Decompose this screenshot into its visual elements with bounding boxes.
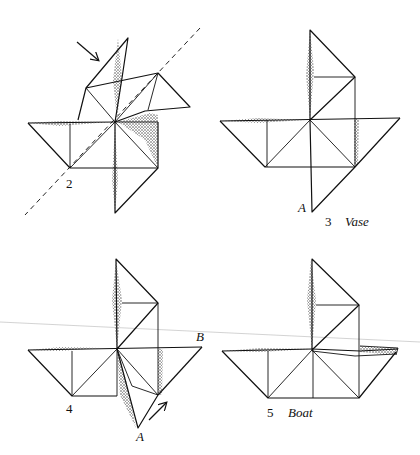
figure-caption: Boat: [288, 405, 313, 420]
point-label-a: A: [135, 429, 144, 444]
step-label: 3: [325, 214, 332, 229]
scan-artifact-line: [0, 322, 420, 342]
figure-step-2: 2: [25, 28, 200, 215]
step-label: 5: [267, 405, 274, 420]
figure-step-3: A 3 Vase: [220, 30, 400, 229]
step-label: 2: [66, 176, 73, 191]
origami-diagram-canvas: 2 A 3 Vase: [0, 0, 420, 455]
point-label-a: A: [297, 200, 306, 215]
point-label-b: B: [196, 329, 204, 344]
figure-step-4: A B 4: [28, 259, 204, 444]
figure-caption: Vase: [345, 214, 369, 229]
arrow-icon: [77, 42, 98, 60]
step-label: 4: [66, 401, 73, 416]
shaded-flap: [118, 113, 158, 168]
shaded-flap: [158, 348, 163, 395]
